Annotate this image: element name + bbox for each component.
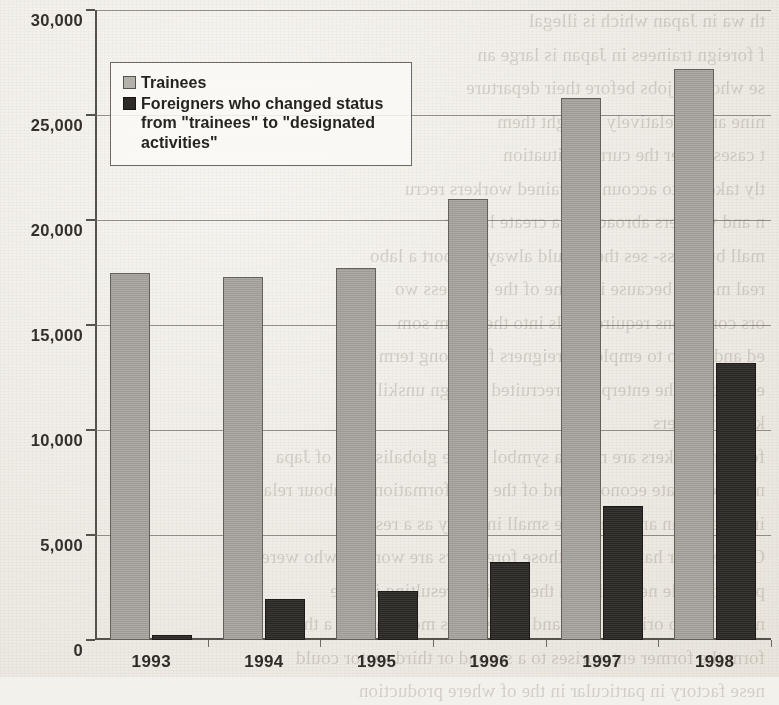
y-axis-tick bbox=[86, 639, 95, 641]
x-axis-tick-label: 1996 bbox=[470, 652, 509, 672]
x-axis-tick-label: 1995 bbox=[357, 652, 396, 672]
gridline bbox=[95, 10, 771, 11]
gridline bbox=[95, 220, 771, 221]
legend-item-changed-status: Foreigners who changed status from "trai… bbox=[123, 94, 401, 153]
x-axis-tick bbox=[433, 640, 434, 647]
x-axis-tick bbox=[208, 640, 209, 647]
y-axis-tick bbox=[86, 534, 95, 536]
y-axis-tick-label: 0 bbox=[74, 641, 83, 660]
bar-trainees bbox=[110, 273, 150, 641]
bar-trainees bbox=[223, 277, 263, 640]
y-axis-tick-label: 15,000 bbox=[31, 326, 83, 345]
legend-label-trainees: Trainees bbox=[141, 73, 206, 93]
x-axis-tick bbox=[771, 640, 772, 647]
bar-changed-status bbox=[378, 591, 418, 640]
y-axis-tick-label: 30,000 bbox=[31, 11, 83, 30]
y-axis-tick-label: 20,000 bbox=[31, 221, 83, 240]
y-axis-tick bbox=[86, 324, 95, 326]
y-axis-tick-label: 5,000 bbox=[40, 536, 83, 555]
legend-swatch-trainees bbox=[123, 76, 136, 89]
x-axis-tick bbox=[320, 640, 321, 647]
bar-changed-status bbox=[152, 635, 192, 640]
chart-legend: Trainees Foreigners who changed status f… bbox=[110, 62, 412, 166]
bar-changed-status bbox=[490, 562, 530, 640]
y-axis-tick-label: 10,000 bbox=[31, 431, 83, 450]
x-axis-tick-label: 1998 bbox=[695, 652, 734, 672]
legend-label-changed-status: Foreigners who changed status from "trai… bbox=[141, 94, 401, 153]
y-axis-tick bbox=[86, 219, 95, 221]
bar-changed-status bbox=[603, 506, 643, 640]
y-axis-tick bbox=[86, 9, 95, 11]
bar-trainees bbox=[448, 199, 488, 640]
bar-trainees bbox=[336, 268, 376, 640]
bar-trainees bbox=[561, 98, 601, 640]
x-axis-tick bbox=[658, 640, 659, 647]
bar-trainees bbox=[674, 69, 714, 640]
legend-item-trainees: Trainees bbox=[123, 73, 401, 93]
y-axis-tick bbox=[86, 429, 95, 431]
bar-changed-status bbox=[265, 599, 305, 640]
x-axis-tick-label: 1994 bbox=[244, 652, 283, 672]
gridline bbox=[95, 535, 771, 536]
x-axis-tick-label: 1997 bbox=[582, 652, 621, 672]
x-axis-tick-label: 1993 bbox=[132, 652, 171, 672]
x-axis-tick bbox=[546, 640, 547, 647]
gridline bbox=[95, 325, 771, 326]
gridline bbox=[95, 430, 771, 431]
y-axis-tick bbox=[86, 114, 95, 116]
bleed-text-line: nese factory in particular in the of whe… bbox=[34, 674, 765, 705]
legend-swatch-changed-status bbox=[123, 97, 136, 110]
y-axis-tick-label: 25,000 bbox=[31, 116, 83, 135]
bar-changed-status bbox=[716, 363, 756, 640]
